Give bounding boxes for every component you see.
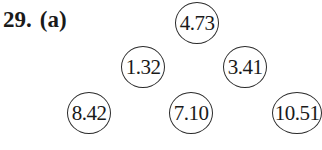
node-level2-1: 1.32	[121, 46, 165, 88]
problem-number: 29.	[3, 7, 32, 32]
node-level3-1: 8.42	[67, 92, 111, 134]
problem-part: (a)	[40, 7, 67, 32]
node-level1-1: 4.73	[175, 2, 219, 44]
problem-label: 29.(a)	[3, 8, 67, 31]
node-level3-3: 10.51	[272, 92, 322, 134]
node-level3-2: 7.10	[169, 92, 213, 134]
node-level2-2: 3.41	[223, 46, 267, 88]
